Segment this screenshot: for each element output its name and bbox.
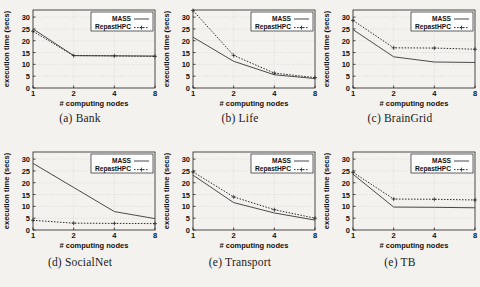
legend-label-mass: MASS	[112, 15, 132, 22]
x-axis-label: # computing nodes	[380, 99, 449, 108]
y-tick-label: 0	[186, 84, 190, 93]
x-tick-label: 8	[153, 231, 157, 240]
y-tick-label: 5	[26, 214, 30, 223]
legend-label-repasthpc: RepastHPC	[95, 23, 131, 31]
series-marker	[72, 221, 76, 225]
legend-label-mass: MASS	[272, 157, 292, 164]
panel-caption-f: (e) TB	[320, 256, 480, 268]
x-tick-label: 2	[392, 89, 396, 98]
series-line-mass	[353, 30, 475, 63]
panel-caption-e: (e) Transport	[160, 256, 320, 268]
y-tick-label: 10	[22, 202, 30, 211]
y-tick-label: 5	[346, 72, 350, 81]
y-axis-label: execution time (secs)	[162, 152, 171, 229]
plot-area-d: 0510152025301248# computing nodesexecuti…	[0, 146, 160, 250]
series-line-repasthpc	[193, 172, 315, 218]
series-marker	[112, 54, 116, 58]
series-marker	[272, 208, 276, 212]
y-tick-label: 20	[182, 37, 190, 46]
series-marker	[191, 170, 195, 174]
panel-caption-a: (a) Bank	[0, 112, 160, 124]
y-tick-label: 20	[22, 179, 30, 188]
x-tick-label: 8	[313, 89, 317, 98]
x-tick-label: 4	[112, 231, 117, 240]
series-marker	[473, 47, 477, 51]
series-line-mass	[353, 174, 475, 208]
panel-caption-c: (c) BrainGrid	[320, 112, 480, 124]
series-line-repasthpc	[33, 220, 155, 223]
y-tick-label: 15	[342, 49, 350, 58]
chart-d: 0510152025301248# computing nodesexecuti…	[0, 146, 160, 250]
x-axis-label: # computing nodes	[220, 99, 289, 108]
chart-panel-b: 0510152025301248# computing nodesexecuti…	[160, 0, 320, 138]
chart-panel-e: 0510152025301248# computing nodesexecuti…	[160, 138, 320, 287]
x-tick-label: 8	[473, 231, 477, 240]
x-tick-label: 1	[191, 231, 195, 240]
y-tick-label: 0	[186, 226, 190, 235]
x-tick-label: 2	[72, 231, 76, 240]
chart-c: 0510152025301248# computing nodesexecuti…	[320, 4, 480, 108]
y-tick-label: 30	[22, 155, 30, 164]
x-tick-label: 4	[432, 231, 437, 240]
chart-panel-c: 0510152025301248# computing nodesexecuti…	[320, 0, 480, 138]
y-axis-label: execution time (secs)	[322, 10, 331, 87]
y-tick-label: 5	[186, 214, 190, 223]
x-tick-label: 1	[31, 231, 35, 240]
y-tick-label: 10	[22, 60, 30, 69]
y-tick-label: 20	[182, 179, 190, 188]
figure-grid: 0510152025301248# computing nodesexecuti…	[0, 0, 480, 287]
y-tick-label: 25	[182, 167, 190, 176]
y-tick-label: 30	[182, 155, 190, 164]
chart-panel-a: 0510152025301248# computing nodesexecuti…	[0, 0, 160, 138]
panel-caption-b: (b) Life	[160, 112, 320, 124]
x-tick-label: 4	[272, 89, 277, 98]
y-tick-label: 30	[342, 155, 350, 164]
y-tick-label: 25	[22, 167, 30, 176]
y-axis-label: execution time (secs)	[162, 10, 171, 87]
x-tick-label: 8	[473, 89, 477, 98]
x-tick-label: 4	[272, 231, 277, 240]
series-marker	[432, 197, 436, 201]
series-marker	[351, 18, 355, 22]
y-tick-label: 10	[182, 60, 190, 69]
chart-b: 0510152025301248# computing nodesexecuti…	[160, 4, 320, 108]
series-line-mass	[193, 37, 315, 78]
y-tick-label: 0	[26, 84, 30, 93]
panel-caption-d: (d) SocialNet	[0, 256, 160, 268]
y-tick-label: 10	[182, 202, 190, 211]
x-tick-label: 4	[112, 89, 117, 98]
legend-label-repasthpc: RepastHPC	[415, 23, 451, 31]
x-tick-label: 1	[31, 89, 35, 98]
x-axis-label: # computing nodes	[60, 99, 129, 108]
x-tick-label: 2	[232, 231, 236, 240]
legend-label-repasthpc: RepastHPC	[415, 165, 451, 173]
x-tick-label: 2	[392, 231, 396, 240]
series-marker	[232, 53, 236, 57]
legend-label-mass: MASS	[432, 157, 452, 164]
chart-f: 0510152025301248# computing nodesexecuti…	[320, 146, 480, 250]
y-tick-label: 20	[342, 37, 350, 46]
x-tick-label: 2	[232, 89, 236, 98]
legend-label-mass: MASS	[432, 15, 452, 22]
y-tick-label: 10	[342, 60, 350, 69]
y-tick-label: 20	[22, 37, 30, 46]
y-tick-label: 5	[186, 72, 190, 81]
series-marker	[432, 46, 436, 50]
series-marker	[392, 46, 396, 50]
y-tick-label: 15	[182, 191, 190, 200]
series-line-mass	[193, 175, 315, 220]
series-line-repasthpc	[353, 172, 475, 200]
x-tick-label: 8	[153, 89, 157, 98]
y-tick-label: 0	[26, 226, 30, 235]
x-tick-label: 1	[351, 231, 355, 240]
y-tick-label: 15	[182, 49, 190, 58]
y-tick-label: 30	[22, 13, 30, 22]
series-marker	[153, 54, 157, 58]
y-tick-label: 10	[342, 202, 350, 211]
y-axis-label: execution time (secs)	[322, 152, 331, 229]
legend-label-repasthpc: RepastHPC	[95, 165, 131, 173]
legend-label-mass: MASS	[112, 157, 132, 164]
x-tick-label: 1	[191, 89, 195, 98]
series-marker	[153, 222, 157, 226]
plot-area-b: 0510152025301248# computing nodesexecuti…	[160, 4, 320, 108]
